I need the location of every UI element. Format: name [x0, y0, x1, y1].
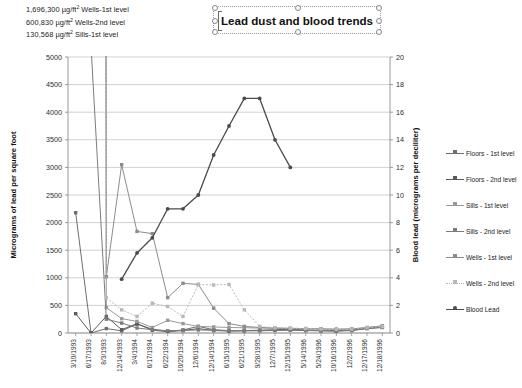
- chart-legend: Floors - 1st levelFloors - 2nd levelSill…: [446, 140, 522, 322]
- data-point: [105, 318, 108, 321]
- data-point: [381, 325, 384, 328]
- x-axis-tick-label-14: 12/15/1995: [284, 339, 291, 372]
- x-axis-tick-label-4: 3/4/1994: [131, 339, 138, 365]
- legend-item-blood-lead[interactable]: Blood Lead: [446, 296, 522, 322]
- y-axis-tick-label-1500: 1500: [46, 246, 62, 255]
- data-point: [120, 317, 123, 320]
- data-point: [365, 326, 368, 329]
- y-axis-tick-label-4000: 4000: [46, 108, 62, 117]
- y2-axis-tick-label-4: 4: [396, 273, 400, 282]
- data-point: [181, 315, 184, 318]
- y2-axis-tick-label-20: 20: [396, 53, 404, 62]
- y2-axis-tick-label-2: 2: [396, 301, 400, 310]
- chart-screenshot: 1,696,300 µg/ft2 Wells-1st level 600,830…: [0, 0, 522, 388]
- y2-axis-title: Blood lead (micrograms per deciliter): [411, 127, 420, 262]
- data-point: [166, 329, 169, 332]
- data-point: [242, 97, 246, 101]
- data-point: [135, 320, 138, 323]
- line-chart-svg: 0500100015002000250030003500400045005000…: [0, 0, 522, 388]
- x-axis-tick-label-0: 3/10/1993: [70, 339, 77, 369]
- y-axis-tick-label-500: 500: [50, 301, 62, 310]
- legend-item-floors-1st-level[interactable]: Floors - 1st level: [446, 140, 522, 166]
- data-point: [166, 319, 169, 322]
- legend-label: Floors - 2nd level: [464, 176, 517, 183]
- legend-item-floors-2nd-level[interactable]: Floors - 2nd level: [446, 166, 522, 192]
- legend-swatch-icon: [446, 227, 464, 236]
- data-point: [181, 329, 184, 332]
- legend-label: Wells - 2nd level: [464, 280, 514, 287]
- x-axis-tick-label-6: 6/22/1994: [162, 339, 169, 369]
- data-point: [258, 329, 261, 332]
- legend-marker: [453, 202, 457, 206]
- x-axis-tick-label-2: 8/3/1993: [100, 339, 107, 365]
- x-axis-tick-label-1: 6/17/1993: [85, 339, 92, 369]
- data-point: [166, 296, 169, 299]
- series-line-sills-1st-level: [91, 0, 382, 329]
- y-axis-tick-label-0: 0: [58, 329, 62, 338]
- data-point: [350, 327, 353, 330]
- legend-swatch-icon: [446, 201, 464, 210]
- data-point: [135, 315, 138, 318]
- x-axis-tick-label-20: 12/18/1996: [376, 339, 383, 372]
- y2-axis-tick-label-8: 8: [396, 218, 400, 227]
- data-point: [120, 277, 124, 281]
- y-axis-tick-label-4500: 4500: [46, 80, 62, 89]
- data-point: [105, 296, 108, 299]
- legend-marker: [453, 254, 457, 258]
- series-line-floors-1st-level: [76, 213, 383, 333]
- x-axis-tick-label-17: 10/16/1996: [330, 339, 337, 372]
- data-point: [151, 328, 154, 331]
- x-axis-tick-label-10: 6/15/1995: [223, 339, 230, 369]
- data-point: [197, 283, 200, 286]
- data-point: [166, 207, 170, 211]
- legend-marker: [453, 280, 457, 284]
- data-point: [212, 306, 215, 309]
- y-axis-tick-label-2500: 2500: [46, 191, 62, 200]
- y2-axis-tick-label-18: 18: [396, 80, 404, 89]
- data-point: [212, 329, 215, 332]
- y-axis-title: Micrograms of lead per square foot: [9, 131, 18, 258]
- series-line-sills-2nd-level: [91, 46, 382, 331]
- y2-axis-tick-label-0: 0: [396, 329, 400, 338]
- y2-axis-tick-label-14: 14: [396, 135, 404, 144]
- data-point: [197, 328, 200, 331]
- y-axis-tick-label-3000: 3000: [46, 163, 62, 172]
- data-point: [212, 283, 215, 286]
- legend-item-sills-1st-level[interactable]: Sills - 1st level: [446, 192, 522, 218]
- data-point: [105, 327, 108, 330]
- legend-label: Sills - 1st level: [464, 202, 508, 209]
- x-axis-tick-label-8: 12/6/1994: [192, 339, 199, 369]
- legend-label: Sills - 2nd level: [464, 228, 510, 235]
- x-axis-tick-label-13: 12/7/1995: [269, 339, 276, 369]
- x-axis-tick-label-3: 12/14/1993: [116, 339, 123, 372]
- data-point: [227, 283, 230, 286]
- x-axis-tick-label-11: 6/21/1995: [238, 339, 245, 369]
- y2-axis-tick-label-6: 6: [396, 246, 400, 255]
- y-axis-tick-label-5000: 5000: [46, 53, 62, 62]
- data-point: [197, 325, 200, 328]
- legend-label: Floors - 1st level: [464, 150, 514, 157]
- legend-label: Blood Lead: [464, 306, 499, 313]
- data-point: [181, 207, 185, 211]
- data-point: [227, 322, 230, 325]
- data-point: [243, 329, 246, 332]
- y2-axis-tick-label-16: 16: [396, 108, 404, 117]
- data-point: [150, 236, 154, 240]
- series-line-blood-lead: [122, 98, 291, 279]
- legend-item-wells-1st-level[interactable]: Wells - 1st level: [446, 244, 522, 270]
- data-point: [181, 322, 184, 325]
- data-point: [120, 321, 123, 324]
- legend-swatch-icon: [446, 305, 464, 314]
- data-point: [273, 326, 276, 329]
- data-point: [196, 193, 200, 197]
- data-point: [74, 211, 77, 214]
- data-point: [120, 163, 123, 166]
- data-point: [304, 327, 307, 330]
- legend-item-wells-2nd-level[interactable]: Wells - 2nd level: [446, 270, 522, 296]
- legend-item-sills-2nd-level[interactable]: Sills - 2nd level: [446, 218, 522, 244]
- data-point: [227, 329, 230, 332]
- data-point: [243, 325, 246, 328]
- data-point: [212, 153, 216, 157]
- legend-swatch-icon: [446, 253, 464, 262]
- x-axis-tick-label-15: 5/14/1996: [300, 339, 307, 369]
